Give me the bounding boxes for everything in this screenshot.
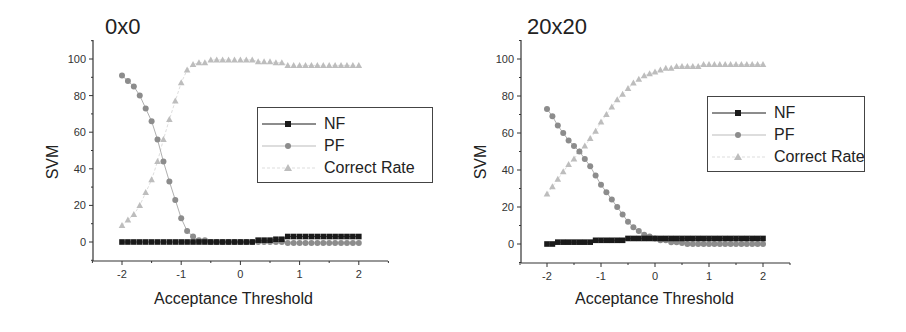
svg-text:-2: -2 [117,268,127,280]
svg-text:1: 1 [706,270,712,282]
x-axis-label: Acceptance Threshold [575,290,734,308]
x-axis-label: Acceptance Threshold [154,290,313,308]
legend-item-correct-rate: Correct Rate [708,147,865,167]
svg-text:0: 0 [652,270,658,282]
chart-panel-0x0: 020406080100-2-1012 0x0 SVM Acceptance T… [0,0,453,332]
chart-title: 0x0 [105,14,140,40]
legend-item-pf: PF [708,125,794,145]
svg-text:80: 80 [74,90,86,102]
svg-text:-1: -1 [176,268,186,280]
svg-text:2: 2 [356,268,362,280]
svg-text:80: 80 [502,90,514,102]
svg-text:60: 60 [502,127,514,139]
svg-text:0: 0 [508,238,514,250]
legend-label: NF [324,115,345,133]
svg-text:20: 20 [74,199,86,211]
legend-label: NF [774,104,795,122]
legend-label: PF [774,126,794,144]
legend-label: PF [324,137,344,155]
svg-text:0: 0 [80,236,86,248]
svg-text:40: 40 [74,163,86,175]
svg-text:60: 60 [74,126,86,138]
square-marker-icon [708,103,768,123]
legend-label: Correct Rate [324,159,415,177]
circle-marker-icon [258,136,318,156]
legend: NF PF Correct Rate [257,107,433,183]
legend-item-nf: NF [708,103,795,123]
legend-item-correct-rate: Correct Rate [258,158,415,178]
y-axis-label: SVM [472,142,490,182]
chart-panel-20x20: 020406080100-2-1012 20x20 SVM Acceptance… [453,0,906,332]
square-marker-icon [258,114,318,134]
svg-text:1: 1 [297,268,303,280]
triangle-marker-icon [708,147,768,167]
legend-item-nf: NF [258,114,345,134]
legend: NF PF Correct Rate [707,96,865,172]
svg-text:100: 100 [496,53,514,65]
svg-text:-2: -2 [542,270,552,282]
triangle-marker-icon [258,158,318,178]
svg-text:0: 0 [237,268,243,280]
svg-text:40: 40 [502,164,514,176]
legend-item-pf: PF [258,136,344,156]
svg-text:-1: -1 [596,270,606,282]
y-axis-label: SVM [44,142,62,182]
svg-text:100: 100 [68,53,86,65]
legend-label: Correct Rate [774,148,865,166]
svg-text:2: 2 [760,270,766,282]
svg-text:20: 20 [502,201,514,213]
chart-title: 20x20 [527,14,587,40]
circle-marker-icon [708,125,768,145]
